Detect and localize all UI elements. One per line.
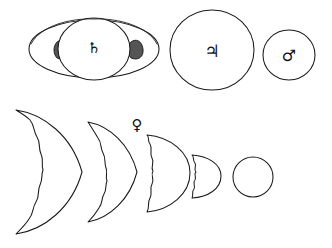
figure-jupiter: ♃ [170,10,254,90]
mars-symbol: ♂ [282,46,296,65]
plate-canvas: ♄ ♃ ♂ ♀ [0,0,332,248]
venus-phase-4-outline [192,155,221,198]
top-row-group: ♄ ♃ ♂ [29,10,315,90]
venus-phase-2-outline [88,122,137,222]
jupiter-symbol: ♃ [204,41,219,61]
figure-saturn: ♄ [29,18,159,80]
engraving-plate: ♄ ♃ ♂ ♀ [0,0,332,248]
figure-mars: ♂ [263,30,315,80]
saturn-symbol: ♄ [87,39,100,57]
venus-phase-3-outline [147,135,190,212]
venus-symbol: ♀ [132,116,143,134]
bottom-row-group: ♀ [16,110,273,234]
venus-phase-1-outline [16,110,82,234]
venus-phase-5-outline [233,157,273,197]
